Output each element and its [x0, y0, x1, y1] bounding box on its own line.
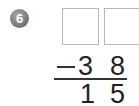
subtrahend-tens-digit: 3	[78, 53, 93, 80]
difference-ones-digit: 5	[110, 81, 125, 106]
answer-box-tens[interactable]	[62, 8, 99, 45]
problem-number-badge: 6	[10, 9, 29, 28]
subtrahend-ones-digit: 8	[110, 53, 125, 80]
answer-box-ones[interactable]	[104, 8, 139, 45]
minus-sign	[57, 66, 75, 68]
difference-tens-digit: 1	[80, 81, 95, 106]
